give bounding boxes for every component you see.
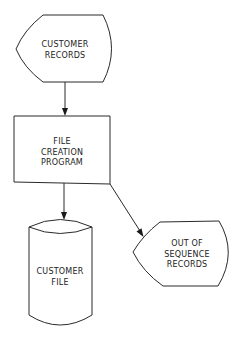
flowchart-diagram: CUSTOMER RECORDS FILE CREATION PROGRAM C… [0, 0, 242, 341]
node-out-of-sequence-records: OUT OF SEQUENCE RECORDS [133, 221, 228, 286]
node-customer-file: CUSTOMER FILE [29, 220, 92, 326]
node-file-creation-program: FILE CREATION PROGRAM [14, 116, 110, 184]
node-label-line: CUSTOMER [42, 40, 89, 49]
node-label-line: FILE [51, 278, 68, 287]
node-label-line: SEQUENCE [164, 250, 210, 259]
edge-program-to-out-of-sequence [110, 184, 144, 237]
node-label-line: FILE [53, 137, 70, 146]
arrowhead-diagonal-icon [137, 228, 144, 237]
arrowhead-down-icon [61, 212, 67, 220]
node-label-line: RECORDS [45, 51, 86, 60]
node-label-line: CUSTOMER [37, 267, 84, 276]
node-customer-records: CUSTOMER RECORDS [16, 15, 112, 82]
node-label-line: CREATION [41, 148, 83, 157]
connector-line [110, 184, 140, 231]
edge-records-to-program [62, 82, 68, 116]
node-label-line: PROGRAM [41, 158, 83, 167]
arrowhead-down-icon [62, 108, 68, 116]
node-label-line: OUT OF [171, 239, 203, 248]
edge-program-to-file [61, 183, 67, 220]
node-label-line: RECORDS [167, 260, 208, 269]
